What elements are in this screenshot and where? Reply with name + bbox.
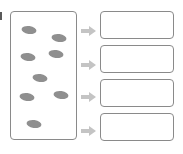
answer-box[interactable] [100, 45, 174, 73]
right-arrow-icon [81, 56, 97, 66]
answer-box[interactable] [100, 113, 174, 141]
right-arrow-icon [81, 22, 97, 32]
sorting-diagram [0, 0, 183, 154]
answer-box[interactable] [100, 79, 174, 107]
label-mark [0, 12, 2, 20]
right-arrow-icon [81, 122, 97, 132]
answer-box[interactable] [100, 11, 174, 39]
right-arrow-icon [81, 88, 97, 98]
